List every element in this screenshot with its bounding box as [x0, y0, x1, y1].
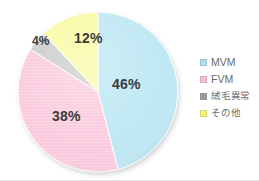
pie-svg: [12, 4, 184, 178]
legend-swatch-villous-abnormality: [200, 93, 207, 100]
pie-chart-plot: 46% 38% 4% 12%: [12, 4, 184, 178]
legend-swatch-other: [200, 110, 207, 117]
legend-item-other[interactable]: その他: [200, 105, 258, 121]
legend-label-fvm: FVM: [211, 73, 233, 85]
chart-legend: MVM FVM 絨毛異常 その他: [200, 54, 258, 122]
legend-label-villous-abnormality: 絨毛異常: [211, 90, 250, 102]
legend-item-mvm[interactable]: MVM: [200, 54, 258, 70]
legend-swatch-mvm: [200, 59, 207, 66]
legend-item-villous-abnormality[interactable]: 絨毛異常: [200, 88, 258, 104]
legend-label-mvm: MVM: [211, 56, 236, 68]
legend-swatch-fvm: [200, 76, 207, 83]
pie-shading-overlay: [18, 12, 178, 172]
legend-item-fvm[interactable]: FVM: [200, 71, 258, 87]
pie-slices-group: [18, 12, 178, 172]
legend-label-other: その他: [211, 107, 240, 119]
pie-chart-figure: 46% 38% 4% 12% MVM FVM 絨毛異常 その他: [0, 0, 259, 181]
